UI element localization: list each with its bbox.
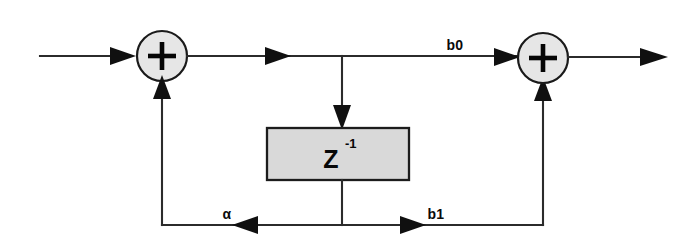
summing-junction-input	[137, 31, 187, 81]
arrow-head-icon	[110, 47, 136, 65]
gain-label-b0: b0	[447, 37, 464, 53]
arrow-head-icon	[494, 48, 520, 66]
signal-flow-diagram: Z -1	[0, 0, 698, 251]
arrow-head-icon	[333, 105, 351, 130]
diagram-canvas: Z -1	[0, 0, 698, 251]
forward-b0-path	[342, 48, 520, 66]
arrow-head-icon	[400, 216, 426, 234]
gain-label-b1: b1	[428, 206, 445, 222]
delay-block: Z -1	[267, 128, 409, 180]
summing-junction-output	[518, 33, 568, 83]
adder-left-output	[187, 47, 342, 65]
delay-symbol: Z	[323, 145, 338, 173]
gain-label-alpha: α	[223, 206, 232, 222]
input-line	[40, 47, 136, 65]
arrow-head-icon	[232, 216, 258, 234]
delay-input	[333, 56, 351, 130]
arrow-head-icon	[265, 47, 291, 65]
arrow-head-icon	[640, 48, 668, 66]
output-line	[568, 48, 668, 66]
delay-exponent: -1	[345, 136, 357, 151]
